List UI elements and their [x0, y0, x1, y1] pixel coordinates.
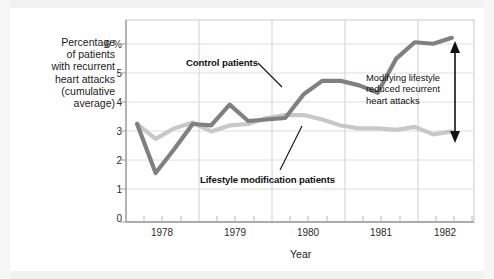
- y-ticks: [120, 44, 126, 222]
- control-patients-callout: Control patients: [186, 57, 258, 68]
- lifestyle-patients-callout: Lifestyle modification patients: [200, 174, 335, 185]
- difference-arrow-note: Modifying lifestyle reduced recurrent he…: [366, 72, 450, 106]
- plot-frame: [126, 20, 474, 222]
- plot-area: [0, 0, 494, 279]
- figure-canvas: Percentage of patients with recurrent he…: [0, 0, 494, 279]
